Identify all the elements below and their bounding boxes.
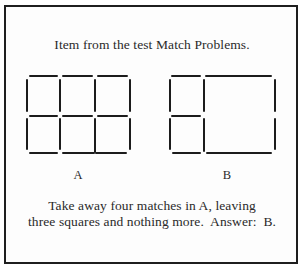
match [29, 152, 58, 154]
match [62, 115, 93, 117]
match [171, 75, 201, 77]
match [169, 79, 171, 112]
match [29, 75, 58, 77]
match [274, 79, 276, 112]
match [169, 118, 171, 150]
match [26, 118, 28, 150]
match [129, 118, 131, 150]
match [94, 79, 96, 112]
match [205, 75, 272, 77]
match [274, 118, 276, 150]
match [203, 79, 205, 112]
match [95, 152, 127, 154]
match [171, 115, 201, 117]
match [129, 79, 131, 112]
match [26, 79, 28, 112]
match [94, 118, 96, 153]
match [97, 75, 128, 77]
match [59, 79, 61, 112]
match [29, 115, 58, 117]
figure-b-label: B [217, 168, 237, 182]
figure-a-label: A [68, 168, 88, 182]
match [206, 152, 272, 154]
match [62, 75, 93, 77]
figure-title: Item from the test Match Problems. [0, 37, 304, 53]
match [203, 118, 205, 152]
problem-text-line-2: three squares and nothing more. Answer: … [0, 214, 304, 230]
match [172, 152, 201, 154]
problem-text-line-1: Take away four matches in A, leaving [0, 198, 304, 214]
match [97, 115, 128, 117]
match [59, 118, 61, 150]
match [62, 152, 95, 154]
